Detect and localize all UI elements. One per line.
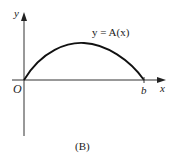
figure-caption: (B): [75, 140, 90, 152]
curve-label: y = A(x): [92, 26, 129, 38]
origin-label: O: [13, 82, 22, 97]
y-axis-arrow-icon: [21, 12, 27, 21]
x-axis-label: x: [160, 82, 165, 94]
curve-A-of-x: [24, 43, 144, 80]
b-label: b: [141, 84, 147, 96]
y-axis-label: y: [14, 7, 19, 19]
diagram-canvas: [0, 0, 172, 159]
